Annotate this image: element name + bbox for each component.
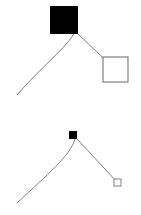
outlined-square-node-top[interactable] xyxy=(103,57,128,82)
filled-square-node-top[interactable] xyxy=(50,6,78,34)
filled-square-node-bottom[interactable] xyxy=(69,131,77,139)
outlined-square-node-bottom[interactable] xyxy=(114,179,121,186)
diagram-canvas xyxy=(0,0,141,215)
